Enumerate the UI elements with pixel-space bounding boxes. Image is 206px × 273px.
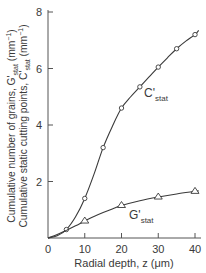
y-tick-label: 4	[36, 119, 42, 131]
x-axis-title: Radial depth, z (μm)	[74, 257, 173, 269]
data-point-triangle	[191, 187, 199, 193]
x-tick-label: 10	[79, 243, 91, 255]
y-tick-label: 8	[36, 6, 42, 18]
y-tick-label: 6	[36, 63, 42, 75]
y-tick-label: 2	[36, 176, 42, 188]
x-tick-label: 20	[115, 243, 127, 255]
data-point-circle	[138, 85, 142, 89]
series-line	[48, 191, 199, 238]
y-axis-ticks: 2468	[36, 6, 53, 188]
data-point-circle	[156, 65, 160, 69]
data-point-circle	[119, 106, 123, 110]
data-point-circle	[193, 32, 197, 36]
chart-svg: Cumulative number of grains, G'stat (mm−…	[0, 0, 206, 273]
y-axis-title: Cumulative number of grains, G'stat (mm−…	[5, 24, 31, 227]
y-axis-title-line: Cumulative static cutting points, C'stat…	[17, 24, 31, 227]
x-tick-label: 40	[189, 243, 201, 255]
data-point-circle	[101, 145, 105, 149]
y-axis-title-line: Cumulative number of grains, G'stat (mm−…	[5, 29, 19, 223]
series-label-g-stat: G'stat	[129, 208, 154, 225]
chart-container: Cumulative number of grains, G'stat (mm−…	[0, 0, 206, 273]
series-label-c-stat: C'stat	[144, 86, 169, 103]
plot-series	[48, 30, 199, 238]
data-point-circle	[174, 47, 178, 51]
x-axis-ticks: 010203040	[45, 233, 201, 255]
x-tick-label: 0	[45, 243, 51, 255]
x-tick-label: 30	[152, 243, 164, 255]
data-point-circle	[83, 196, 87, 200]
